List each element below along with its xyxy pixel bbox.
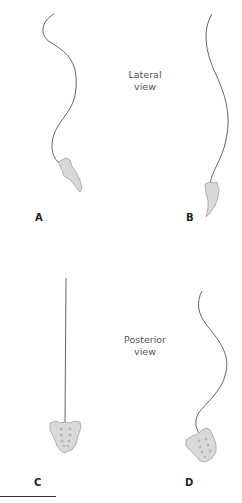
panel-label-c: C [34,477,41,488]
spine-line-c [65,278,66,422]
panel-b-drawing [205,14,228,217]
posterior-view-label-line2: view [110,346,180,358]
panel-label-a: A [35,212,43,223]
panel-label-b: B [186,212,194,223]
spine-diagram-figure: Lateral view Posterior view A B C D [0,0,242,503]
sacrum-a [58,158,82,192]
panel-label-d: D [185,477,193,488]
lateral-view-label: Lateral view [110,69,180,93]
panel-c-drawing [50,278,81,453]
lateral-view-label-line2: view [110,81,180,93]
spine-curve-d [196,291,227,434]
panel-d-drawing [186,291,227,462]
footer-rule [0,496,56,497]
sacrum-c [50,421,81,453]
panel-a-drawing [43,14,82,192]
lateral-view-label-line1: Lateral [110,69,180,81]
posterior-view-label-line1: Posterior [110,334,180,346]
spine-curve-b [206,14,228,184]
posterior-view-label: Posterior view [110,334,180,358]
spine-curve-a [43,14,76,162]
sacrum-b [205,182,219,217]
sacrum-d [186,428,216,462]
